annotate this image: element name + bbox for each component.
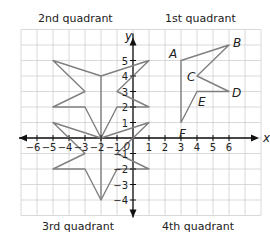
- vertex-labels: ABCDEF: [168, 36, 241, 141]
- x-axis-left-arrow-icon: [19, 135, 27, 142]
- y-tick-label: 4: [122, 71, 128, 82]
- origin-label: 0: [124, 141, 130, 152]
- vertex-label-c: C: [187, 70, 196, 84]
- x-tick-label: −2: [90, 142, 105, 153]
- x-tick-label: 6: [226, 142, 232, 153]
- grid-lines: [21, 30, 261, 216]
- x-tick-label: −3: [74, 142, 89, 153]
- y-tick-label: 3: [122, 87, 128, 98]
- y-axis-down-arrow-icon: [130, 210, 137, 218]
- vertex-label-b: B: [233, 36, 241, 50]
- y-tick-label: 5: [122, 56, 128, 67]
- x-tick-label: 4: [194, 142, 200, 153]
- x-tick-label: −6: [26, 142, 41, 153]
- vertex-label-f: F: [179, 127, 187, 141]
- x-axis-label: x: [262, 131, 270, 145]
- vertex-label-a: A: [168, 47, 177, 61]
- y-tick-label: −3: [113, 180, 128, 191]
- x-tick-label: −5: [42, 142, 57, 153]
- vertex-label-e: E: [198, 95, 206, 109]
- coordinate-plane-figure: 2nd quadrant 1st quadrant 3rd quadrant 4…: [0, 0, 270, 240]
- x-tick-label: 1: [146, 142, 152, 153]
- x-tick-label: −4: [58, 142, 73, 153]
- x-axis-right-arrow-icon: [251, 135, 259, 142]
- y-tick-label: −2: [113, 164, 128, 175]
- x-tick-label: 3: [178, 142, 184, 153]
- x-tick-label: 2: [162, 142, 168, 153]
- coordinate-grid: −6−5−4−3−2−1123456−4−3−2−1123450xy ABCDE…: [0, 0, 270, 240]
- y-tick-label: 1: [122, 118, 128, 129]
- x-tick-label: 5: [210, 142, 216, 153]
- y-axis-label: y: [124, 29, 133, 43]
- y-tick-label: −4: [113, 195, 128, 206]
- y-tick-label: 2: [122, 102, 128, 113]
- tick-labels: −6−5−4−3−2−1123456−4−3−2−1123450xy: [26, 29, 270, 207]
- vertex-label-d: D: [232, 86, 241, 100]
